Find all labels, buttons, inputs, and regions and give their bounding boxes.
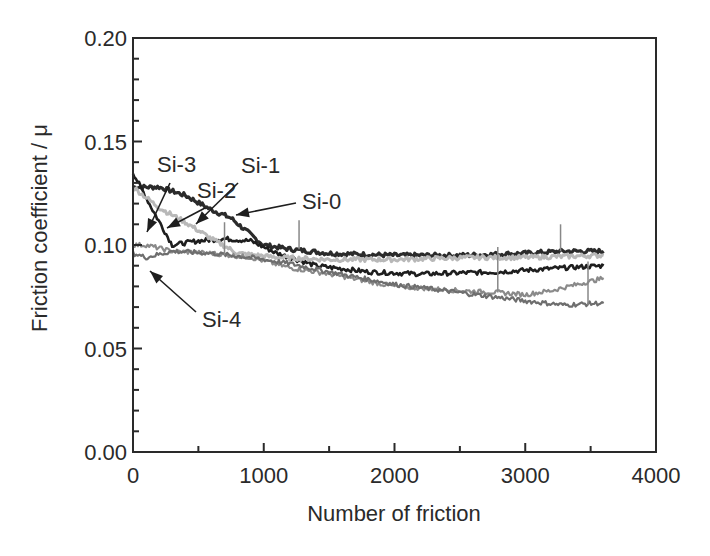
friction-chart: 01000200030004000 0.000.050.100.150.20 N…	[0, 0, 710, 556]
x-tick-label: 4000	[632, 463, 681, 488]
x-tick-label: 3000	[501, 463, 550, 488]
y-tick-label: 0.00	[84, 440, 127, 465]
x-axis-title: Number of friction	[307, 501, 481, 526]
x-tick-label: 1000	[239, 463, 288, 488]
arrowhead-icon	[147, 218, 157, 232]
x-tick-labels: 01000200030004000	[127, 463, 681, 488]
arrowhead-icon	[236, 208, 250, 218]
annotation-si-4: Si-4	[202, 307, 241, 332]
axis-ticks	[133, 38, 656, 452]
annotation-si-3: Si-3	[157, 152, 196, 177]
annotation-si-0: Si-0	[302, 189, 341, 214]
y-axis-title: Friction coefficient / μ	[27, 124, 52, 332]
y-tick-label: 0.05	[84, 337, 127, 362]
y-tick-labels: 0.000.050.100.150.20	[84, 26, 127, 465]
x-tick-label: 0	[127, 463, 139, 488]
y-tick-label: 0.10	[84, 233, 127, 258]
y-tick-label: 0.20	[84, 26, 127, 51]
y-tick-label: 0.15	[84, 130, 127, 155]
plot-frame	[133, 38, 656, 452]
x-tick-label: 2000	[370, 463, 419, 488]
annotation-si-1: Si-1	[241, 153, 280, 178]
